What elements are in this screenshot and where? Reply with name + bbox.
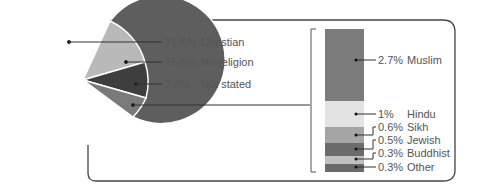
bar-buddhist: [325, 156, 364, 164]
label-muslim: Muslim: [407, 54, 442, 66]
label-not-stated-pct: 7.3%: [165, 78, 190, 90]
label-other: Other: [407, 161, 435, 173]
stacked-bar: [325, 29, 364, 172]
label-christian-pct: 71.6%: [165, 36, 196, 48]
bar-other: [325, 164, 364, 172]
label-jewish-pct: 0.5%: [378, 134, 403, 146]
label-buddhist-pct: 0.3%: [378, 147, 403, 159]
label-other-pct: 0.3%: [378, 161, 403, 173]
label-jewish: Jewish: [407, 134, 441, 146]
label-hindu-pct: 1%: [378, 108, 394, 120]
label-no-religion-pct: 15.5%: [165, 56, 196, 68]
religion-chart: 71.6% Christian 15.5% No religion 7.3% N…: [0, 0, 477, 194]
label-buddhist: Buddhist: [407, 147, 450, 159]
label-not-stated: Not stated: [201, 78, 251, 90]
label-christian: Christian: [201, 36, 244, 48]
bracket: [311, 29, 316, 172]
label-sikh: Sikh: [407, 121, 428, 133]
label-no-religion: No religion: [201, 56, 254, 68]
label-sikh-pct: 0.6%: [378, 121, 403, 133]
label-muslim-pct: 2.7%: [378, 54, 403, 66]
label-hindu: Hindu: [407, 108, 436, 120]
bar-muslim: [325, 29, 364, 101]
